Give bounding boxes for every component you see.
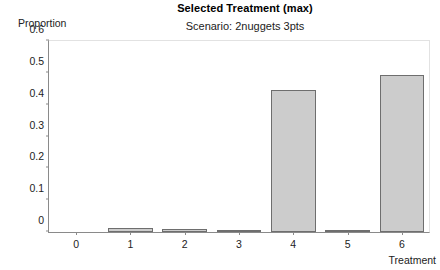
x-axis-tick-mark [402, 232, 403, 235]
y-axis-tick-label: 0.3 [29, 119, 44, 131]
x-axis-tick-label: 2 [182, 238, 188, 250]
x-axis-tick-mark [76, 232, 77, 235]
bar-group: 2 [158, 41, 212, 232]
y-axis-tick-label: 0.1 [29, 182, 44, 194]
plot-area: 00.10.20.30.40.50.6 0123456 [48, 40, 430, 233]
bar-group: 3 [212, 41, 266, 232]
x-axis-tick-label: 1 [128, 238, 134, 250]
x-axis-tick-label: 0 [73, 238, 79, 250]
bar [380, 75, 425, 232]
x-axis-tick-label: 5 [345, 238, 351, 250]
y-axis-tick-label: 0.6 [29, 23, 44, 35]
x-axis-tick-label: 3 [236, 238, 242, 250]
x-axis-label: Treatment [389, 254, 436, 266]
bar-group: 5 [320, 41, 374, 232]
x-axis-tick-label: 6 [399, 238, 405, 250]
y-axis-tick-label: 0 [38, 214, 44, 226]
bar-series: 0123456 [49, 41, 429, 232]
x-axis-tick-mark [239, 232, 240, 235]
chart-title: Selected Treatment (max) [60, 2, 430, 14]
y-axis-tick-label: 0.2 [29, 150, 44, 162]
y-axis-tick-label: 0.5 [29, 55, 44, 67]
chart-subtitle: Scenario: 2nuggets 3pts [60, 20, 430, 32]
bar-group: 6 [375, 41, 429, 232]
bar-chart: Selected Treatment (max) Scenario: 2nugg… [0, 0, 440, 270]
x-axis-tick-mark [293, 232, 294, 235]
x-axis-tick-mark [348, 232, 349, 235]
bar-group: 4 [266, 41, 320, 232]
x-axis-tick-mark [185, 232, 186, 235]
y-axis-tick-label: 0.4 [29, 87, 44, 99]
x-axis-tick-mark [130, 232, 131, 235]
bar-group: 1 [103, 41, 157, 232]
bar-group: 0 [49, 41, 103, 232]
x-axis-tick-label: 4 [290, 238, 296, 250]
bar [271, 90, 316, 232]
